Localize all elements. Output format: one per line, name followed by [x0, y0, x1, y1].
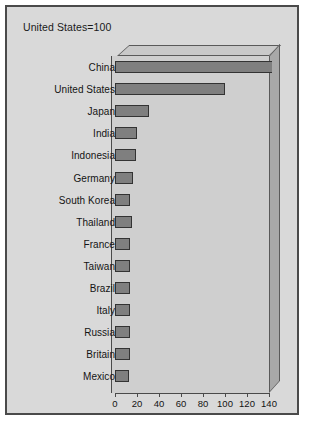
- bar-track: [115, 321, 285, 343]
- x-tick-60: [181, 393, 182, 397]
- x-axis-ticks: 020406080100120140: [7, 393, 301, 415]
- bar-row: Italy: [7, 299, 301, 321]
- bar-track: [115, 189, 285, 211]
- category-label-japan: Japan: [88, 106, 116, 117]
- bar-row: France: [7, 233, 301, 255]
- chart-frame: United States=100 ChinaUnited StatesJapa…: [5, 5, 299, 415]
- category-label-indonesia: Indonesia: [71, 150, 115, 161]
- category-label-france: France: [84, 238, 115, 249]
- bar-taiwan: [115, 260, 130, 272]
- bar-rows: ChinaUnited StatesJapanIndiaIndonesiaGer…: [7, 56, 301, 387]
- bar-row: Thailand: [7, 211, 301, 233]
- category-label-thailand: Thailand: [76, 216, 115, 227]
- x-tick-label-0: 0: [112, 398, 117, 409]
- bar-germany: [115, 172, 133, 184]
- bar-indonesia: [115, 149, 136, 161]
- bar-track: [115, 56, 285, 78]
- x-tick-label-20: 20: [132, 398, 143, 409]
- bar-track: [115, 100, 285, 122]
- category-label-south-korea: South Korea: [59, 194, 115, 205]
- bar-row: Indonesia: [7, 144, 301, 166]
- bar-russia: [115, 326, 130, 338]
- bar-row: Mexico: [7, 365, 301, 387]
- bar-track: [115, 299, 285, 321]
- bar-row: India: [7, 122, 301, 144]
- bar-track: [115, 211, 285, 233]
- x-tick-label-100: 100: [217, 398, 233, 409]
- category-label-brazil: Brazil: [90, 282, 115, 293]
- x-tick-40: [159, 393, 160, 397]
- category-label-mexico: Mexico: [83, 371, 115, 382]
- bar-united-states: [115, 83, 225, 95]
- bar-row: Britain: [7, 343, 301, 365]
- bar-brazil: [115, 282, 130, 294]
- bar-track: [115, 277, 285, 299]
- category-label-russia: Russia: [84, 327, 115, 338]
- bar-japan: [115, 105, 149, 117]
- bar-track: [115, 78, 285, 100]
- bar-south-korea: [115, 194, 130, 206]
- x-tick-140: [269, 393, 270, 397]
- x-tick-100: [225, 393, 226, 397]
- x-tick-label-60: 60: [176, 398, 187, 409]
- x-tick-label-140: 140: [261, 398, 277, 409]
- bar-row: China: [7, 56, 301, 78]
- bar-thailand: [115, 216, 132, 228]
- bar-row: Russia: [7, 321, 301, 343]
- bar-track: [115, 233, 285, 255]
- bar-row: United States: [7, 78, 301, 100]
- bar-india: [115, 127, 137, 139]
- x-tick-label-80: 80: [198, 398, 209, 409]
- bar-britain: [115, 348, 130, 360]
- bar-track: [115, 144, 285, 166]
- bar-track: [115, 255, 285, 277]
- bar-row: Germany: [7, 166, 301, 188]
- bar-track: [115, 365, 285, 387]
- x-tick-0: [115, 393, 116, 397]
- category-label-india: India: [93, 128, 115, 139]
- x-tick-label-120: 120: [239, 398, 255, 409]
- bar-row: South Korea: [7, 189, 301, 211]
- category-label-taiwan: Taiwan: [84, 260, 115, 271]
- bar-track: [115, 166, 285, 188]
- bar-track: [115, 343, 285, 365]
- bar-row: Japan: [7, 100, 301, 122]
- bar-mexico: [115, 370, 129, 382]
- category-label-china: China: [89, 62, 115, 73]
- x-tick-120: [247, 393, 248, 397]
- x-tick-80: [203, 393, 204, 397]
- bar-china: [115, 61, 272, 73]
- category-label-germany: Germany: [74, 172, 115, 183]
- category-label-britain: Britain: [86, 349, 115, 360]
- bar-italy: [115, 304, 130, 316]
- bar-france: [115, 238, 130, 250]
- x-tick-label-40: 40: [154, 398, 165, 409]
- category-label-italy: Italy: [96, 305, 115, 316]
- bar-row: Taiwan: [7, 255, 301, 277]
- plot-top-face: [117, 45, 281, 56]
- bar-track: [115, 122, 285, 144]
- x-tick-20: [137, 393, 138, 397]
- bar-row: Brazil: [7, 277, 301, 299]
- category-label-united-states: United States: [54, 84, 115, 95]
